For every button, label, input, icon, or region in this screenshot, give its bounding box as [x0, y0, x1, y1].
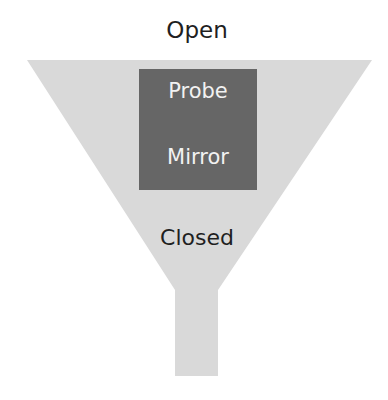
open-label: Open — [0, 17, 388, 43]
probe-label: Probe — [139, 79, 257, 103]
closed-label: Closed — [0, 225, 388, 250]
mirror-label: Mirror — [139, 145, 257, 169]
funnel-shape — [0, 0, 388, 400]
probe-mirror-box: Probe Mirror — [139, 69, 257, 190]
